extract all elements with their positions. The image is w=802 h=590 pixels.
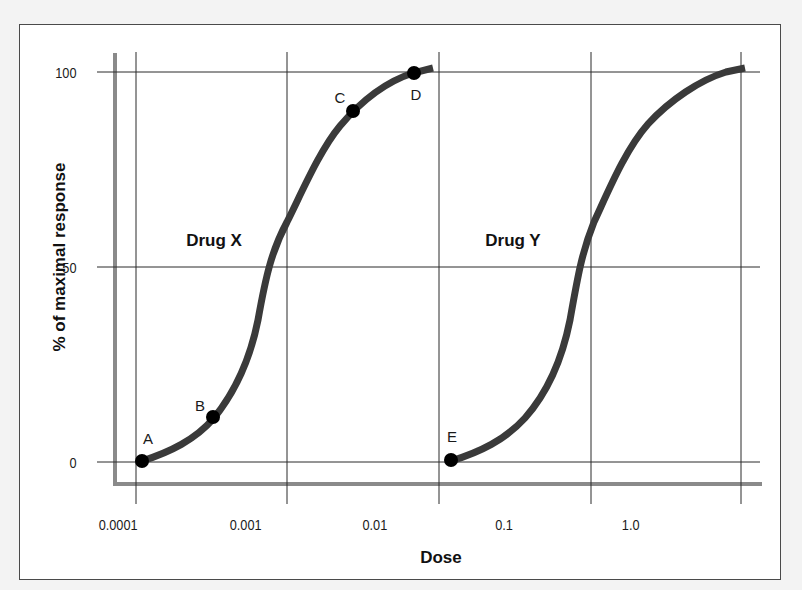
y-axis-title: % of maximal response bbox=[50, 163, 69, 352]
x-tick-0.1: 0.1 bbox=[495, 516, 513, 533]
point-e-marker bbox=[444, 453, 458, 467]
x-tick-0.0001: 0.0001 bbox=[99, 516, 138, 533]
dose-response-chart: 100 50 0 0.0001 0.001 0.01 0.1 1.0 Dose … bbox=[0, 0, 802, 590]
point-b-label: B bbox=[195, 397, 205, 414]
point-d-label: D bbox=[411, 86, 422, 103]
point-e-label: E bbox=[447, 428, 457, 445]
x-tick-0.001: 0.001 bbox=[230, 516, 262, 533]
drug-x-label: Drug X bbox=[186, 231, 242, 250]
x-tick-1.0: 1.0 bbox=[622, 516, 640, 533]
point-d-marker bbox=[407, 66, 421, 80]
x-axis-title: Dose bbox=[420, 548, 462, 567]
point-c-marker bbox=[346, 104, 360, 118]
point-b-marker bbox=[206, 410, 220, 424]
point-a-marker bbox=[135, 454, 149, 468]
y-tick-100: 100 bbox=[55, 64, 76, 81]
point-c-label: C bbox=[335, 89, 346, 106]
drug-y-label: Drug Y bbox=[485, 231, 541, 250]
x-tick-labels: 0.0001 0.001 0.01 0.1 1.0 bbox=[99, 516, 640, 533]
point-a-label: A bbox=[143, 430, 153, 447]
drug-y-curve bbox=[451, 68, 745, 461]
x-tick-0.01: 0.01 bbox=[362, 516, 387, 533]
y-tick-0: 0 bbox=[69, 454, 76, 471]
